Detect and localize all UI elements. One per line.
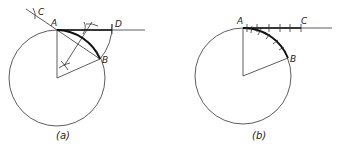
caption-a: (a) (56, 130, 70, 141)
arc-mark-top1 (83, 22, 85, 34)
label-d-fig-a: D (115, 19, 122, 29)
bold-arc-ab-b (243, 28, 288, 58)
diagram-canvas: A B C D (a) A B C (b) (0, 0, 340, 151)
label-c-fig-b: C (301, 16, 308, 26)
radius-ob-b (243, 58, 288, 76)
figure-b (195, 24, 332, 124)
label-b-fig-a: B (102, 55, 108, 65)
label-a-fig-a: A (50, 18, 57, 28)
radius-ob (57, 59, 100, 78)
label-a-fig-b: A (236, 16, 243, 26)
caption-b: (b) (252, 130, 266, 141)
label-b-fig-b: B (290, 54, 296, 64)
arc-mark-top2 (86, 24, 98, 26)
label-c-fig-a: C (38, 7, 45, 17)
bisector-line (64, 22, 92, 66)
figure-a (9, 8, 145, 126)
